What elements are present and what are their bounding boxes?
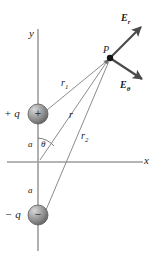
dipole-figure: + − y x + q − q P r1 r r2 a a θ Er Eθ [0, 0, 156, 264]
radial-field-base: E [121, 12, 128, 23]
field-point-dot [107, 55, 113, 61]
tangential-field-label: Eθ [120, 80, 130, 93]
positive-charge-label: + q [4, 108, 20, 119]
r1-subscript: 1 [65, 83, 68, 90]
r1-label: r1 [61, 78, 68, 91]
r-label: r [69, 110, 73, 123]
r2-subscript: 2 [85, 136, 88, 143]
negative-charge-label: − q [5, 209, 21, 220]
r2-label: r2 [81, 131, 88, 144]
radial-field-label: Er [121, 13, 130, 26]
radial-field-subscript: r [128, 18, 131, 25]
upper-separation-label: a [28, 140, 33, 149]
tangential-field-base: E [120, 79, 127, 90]
theta-angle-label: θ [41, 140, 45, 149]
diagram-canvas [0, 0, 156, 264]
y-axis-label: y [29, 28, 34, 39]
field-point-label: P [103, 45, 109, 55]
tangential-field-subscript: θ [127, 85, 131, 92]
negative-sign-glyph: − [28, 209, 48, 220]
x-axis-label: x [144, 155, 149, 166]
lower-separation-label: a [28, 186, 33, 195]
r-base: r [69, 109, 73, 120]
radial-field-arrow [110, 27, 141, 58]
tangential-field-arrow [110, 58, 142, 79]
positive-sign-glyph: + [28, 108, 48, 119]
r2-segment [46, 61, 109, 210]
